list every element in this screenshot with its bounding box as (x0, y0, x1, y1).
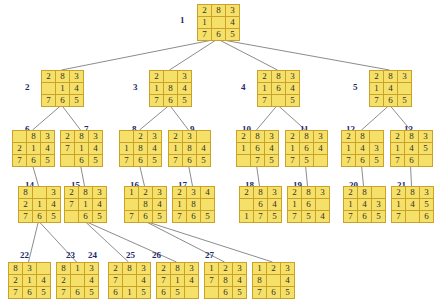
puzzle-tile: 4 (197, 143, 211, 155)
puzzle-tile: 1 (198, 17, 212, 29)
puzzle-tile: 8 (358, 187, 372, 199)
puzzle-tile: 4 (185, 275, 199, 287)
puzzle-node-15: 28371465 (64, 186, 107, 223)
puzzle-grid-4: 28316475 (257, 70, 300, 107)
puzzle-row: 84 (253, 275, 295, 287)
puzzle-tile: 3 (286, 71, 300, 83)
puzzle-node-22: 83214765 (8, 262, 51, 299)
puzzle-tile: 3 (41, 131, 55, 143)
puzzle-grid-10: 28316475 (236, 130, 279, 167)
puzzle-grid-15: 28371465 (64, 186, 107, 223)
puzzle-row: 765 (198, 29, 240, 41)
puzzle-tile: 5 (137, 287, 151, 299)
puzzle-tile: 7 (61, 143, 75, 155)
puzzle-row: 714 (61, 143, 103, 155)
puzzle-tile: 2 (109, 263, 123, 275)
tree-edge-1-4 (218, 39, 278, 70)
puzzle-tile: 7 (288, 211, 302, 223)
puzzle-tile: 8 (123, 263, 137, 275)
puzzle-tile: 6 (212, 29, 226, 41)
puzzle-tile: 6 (384, 95, 398, 107)
puzzle-tile: 6 (405, 155, 419, 167)
puzzle-tile (398, 83, 412, 95)
puzzle-node-1: 28314765 (197, 4, 240, 41)
puzzle-tile: 7 (109, 275, 123, 287)
puzzle-row: 76 (391, 155, 433, 167)
puzzle-tile: 4 (226, 17, 240, 29)
puzzle-node-9: 23184765 (168, 130, 211, 167)
puzzle-tile: 1 (23, 275, 37, 287)
puzzle-tile: 7 (251, 155, 265, 167)
puzzle-grid-1: 28314765 (197, 4, 240, 41)
puzzle-tile: 2 (65, 187, 79, 199)
puzzle-tile: 7 (286, 155, 300, 167)
puzzle-tile: 4 (405, 143, 419, 155)
puzzle-tile: 5 (93, 211, 107, 223)
puzzle-row: 76 (392, 211, 434, 223)
puzzle-node-8: 23184765 (119, 130, 162, 167)
puzzle-tile: 1 (286, 143, 300, 155)
puzzle-row: 145 (392, 199, 434, 211)
puzzle-tile: 8 (79, 187, 93, 199)
puzzle-tile: 6 (56, 95, 70, 107)
puzzle-row: 83 (9, 263, 51, 275)
puzzle-row: 184 (169, 143, 211, 155)
puzzle-tile (125, 199, 139, 211)
puzzle-tile: 5 (201, 211, 215, 223)
puzzle-tile (201, 199, 215, 211)
puzzle-node-12: 28143765 (341, 130, 384, 167)
puzzle-tile (237, 155, 251, 167)
puzzle-tile: 7 (370, 95, 384, 107)
puzzle-tile: 8 (406, 187, 420, 199)
puzzle-row: 765 (253, 287, 295, 299)
puzzle-tile: 7 (253, 287, 267, 299)
puzzle-tile: 3 (178, 71, 192, 83)
puzzle-tile: 4 (89, 143, 103, 155)
puzzle-tile: 2 (169, 131, 183, 143)
puzzle-row: 145 (391, 143, 433, 155)
puzzle-tile: 8 (183, 143, 197, 155)
puzzle-tile (65, 211, 79, 223)
puzzle-row: 65 (157, 287, 199, 299)
puzzle-grid-14: 83214765 (18, 186, 61, 223)
puzzle-tile: 7 (254, 211, 268, 223)
puzzle-tile: 6 (109, 287, 123, 299)
puzzle-grid-3: 23184765 (149, 70, 192, 107)
puzzle-tile: 4 (153, 199, 167, 211)
puzzle-tile: 8 (171, 263, 185, 275)
puzzle-tile: 7 (391, 155, 405, 167)
puzzle-tile: 5 (420, 199, 434, 211)
puzzle-tile: 2 (219, 263, 233, 275)
puzzle-tile: 3 (23, 263, 37, 275)
puzzle-tile: 8 (384, 71, 398, 83)
puzzle-tile: 8 (356, 131, 370, 143)
puzzle-row: 765 (344, 211, 386, 223)
puzzle-tile: 7 (57, 287, 71, 299)
puzzle-tile: 3 (398, 71, 412, 83)
puzzle-grid-5: 28314765 (369, 70, 412, 107)
puzzle-tile: 1 (391, 143, 405, 155)
puzzle-tile: 6 (134, 155, 148, 167)
puzzle-tile (212, 17, 226, 29)
puzzle-tile (205, 287, 219, 299)
puzzle-node-3: 23184765 (149, 70, 192, 107)
puzzle-tile: 5 (265, 155, 279, 167)
puzzle-tile: 7 (344, 211, 358, 223)
puzzle-tile: 4 (137, 275, 151, 287)
puzzle-tile: 1 (125, 187, 139, 199)
puzzle-tile: 6 (23, 287, 37, 299)
puzzle-tile: 3 (420, 187, 434, 199)
puzzle-tile: 6 (187, 211, 201, 223)
puzzle-tile: 2 (286, 131, 300, 143)
puzzle-tile: 8 (134, 143, 148, 155)
puzzle-tile: 5 (197, 155, 211, 167)
puzzle-tile: 8 (302, 187, 316, 199)
puzzle-tile: 2 (391, 131, 405, 143)
puzzle-row: 28 (342, 131, 384, 143)
puzzle-node-26: 12378465 (204, 262, 247, 299)
puzzle-tile: 4 (406, 199, 420, 211)
puzzle-row: 765 (173, 211, 215, 223)
puzzle-tile: 6 (358, 211, 372, 223)
puzzle-tile: 2 (61, 131, 75, 143)
puzzle-tile: 6 (164, 95, 178, 107)
